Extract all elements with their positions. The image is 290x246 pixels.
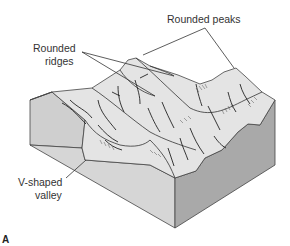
panel-letter: A	[2, 234, 9, 245]
landscape-block-diagram	[0, 0, 290, 246]
label-v-shaped-valley-line2: valley	[35, 189, 62, 201]
label-v-shaped-valley-line1: V-shaped	[18, 176, 62, 188]
label-rounded-ridges-line2: ridges	[45, 55, 74, 67]
label-rounded-ridges-line1: Rounded	[33, 42, 76, 54]
label-rounded-peaks: Rounded peaks	[167, 13, 241, 25]
